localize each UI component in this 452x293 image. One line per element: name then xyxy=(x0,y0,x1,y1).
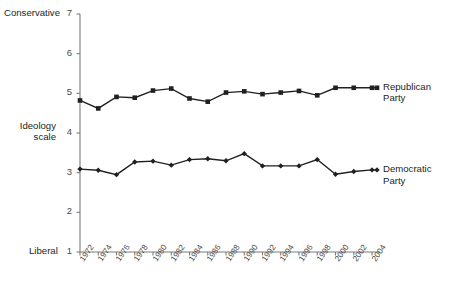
ideology-scale-chart: Conservative Liberal Ideology scale 1234… xyxy=(0,0,452,293)
chart-legend-connectors xyxy=(372,85,380,172)
y-axis-title-line-2: scale xyxy=(12,131,56,142)
y-axis-title: Ideology scale xyxy=(12,120,56,142)
legend-label-democratic-party: Democratic Party xyxy=(383,163,432,185)
y-axis-anchor-liberal: Liberal xyxy=(29,246,58,257)
y-axis-title-line-1: Ideology xyxy=(12,120,56,131)
y-axis-anchor-conservative: Conservative xyxy=(4,8,60,19)
legend-republican-line-1: Republican xyxy=(383,81,431,92)
y-tick-label: 5 xyxy=(58,87,72,98)
chart-axes xyxy=(77,14,381,256)
legend-republican-line-2: Party xyxy=(383,92,431,103)
y-tick-label: 7 xyxy=(58,8,72,19)
y-tick-label: 3 xyxy=(58,167,72,178)
legend-democratic-line-2: Party xyxy=(383,175,432,186)
chart-series xyxy=(77,85,374,177)
y-tick-label: 1 xyxy=(58,246,72,257)
legend-democratic-line-1: Democratic xyxy=(383,163,432,174)
legend-label-republican-party: Republican Party xyxy=(383,81,431,103)
y-tick-label: 4 xyxy=(58,127,72,138)
y-tick-label: 2 xyxy=(58,206,72,217)
y-tick-label: 6 xyxy=(58,48,72,59)
